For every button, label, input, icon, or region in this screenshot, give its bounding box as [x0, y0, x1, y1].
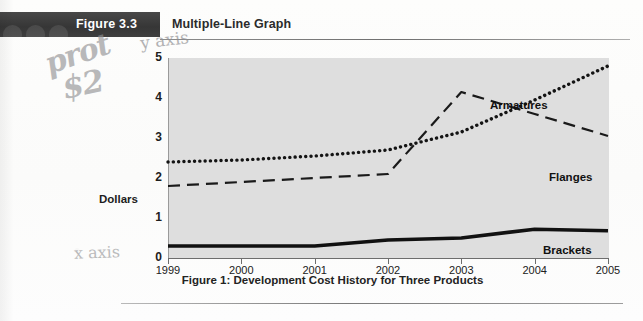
series-line-armatures	[168, 66, 608, 162]
figure-caption-text: Figure 1: Development Cost History for T…	[182, 274, 484, 286]
header-divider-rule	[160, 39, 630, 40]
bottom-divider-rule	[121, 303, 623, 304]
figure-number: Figure 3.3	[76, 17, 137, 31]
band-watermark-circle	[26, 25, 45, 37]
series-label-brackets: Brackets	[543, 244, 592, 256]
series-lines	[0, 44, 643, 269]
series-label-armatures: Armatures	[490, 99, 548, 111]
band-watermark-circle	[3, 25, 22, 37]
series-line-brackets	[168, 229, 608, 246]
figure-title: Multiple-Line Graph	[172, 17, 291, 31]
figure-caption: Figure 1: Development Cost History for T…	[0, 274, 643, 286]
line-chart: Dollars 012345 1999200020012002200320042…	[0, 44, 643, 269]
band-watermark-circle	[49, 25, 68, 37]
series-label-flanges: Flanges	[549, 171, 592, 183]
